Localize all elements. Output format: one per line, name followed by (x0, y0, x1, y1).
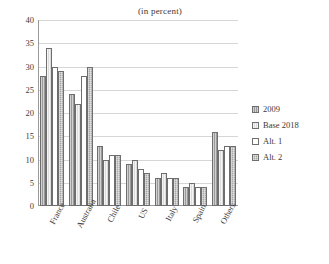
legend-label: Alt. 2 (263, 152, 282, 162)
y-axis-tick-label: 0 (30, 201, 34, 211)
y-axis-tick-label: 40 (26, 15, 35, 25)
bar-groups (38, 20, 238, 206)
y-axis-tick-label: 15 (26, 131, 35, 141)
y-axis-tick-label: 25 (26, 85, 35, 95)
legend-label: Alt. 1 (263, 136, 282, 146)
legend-swatch-icon (252, 154, 259, 161)
legend-item[interactable]: Base 2018 (252, 120, 299, 130)
bar-group (40, 20, 64, 206)
y-axis-tick-label: 30 (26, 62, 35, 72)
x-axis-label-slot: France (40, 208, 66, 264)
chart-title: (in percent) (95, 6, 225, 16)
y-axis-tick-label: 5 (30, 178, 34, 188)
legend-swatch-icon (252, 106, 259, 113)
plot-area: 4035302520151050 (38, 20, 238, 206)
legend-swatch-icon (252, 122, 259, 129)
legend-swatch-icon (252, 138, 259, 145)
bar[interactable] (144, 173, 150, 206)
bar[interactable] (230, 146, 236, 206)
legend-item[interactable]: Alt. 1 (252, 136, 299, 146)
bar[interactable] (87, 67, 93, 207)
bar[interactable] (115, 155, 121, 206)
legend-item[interactable]: 2009 (252, 104, 299, 114)
y-axis-tick-label: 20 (26, 108, 35, 118)
bar-group (69, 20, 93, 206)
bar-group (183, 20, 207, 206)
bar-group (97, 20, 121, 206)
legend-label: 2009 (263, 104, 280, 114)
bar-group (212, 20, 236, 206)
bar[interactable] (173, 178, 179, 206)
legend-item[interactable]: Alt. 2 (252, 152, 299, 162)
y-axis-tick-label: 10 (26, 155, 35, 165)
x-axis-labels: FranceAustraliaChileUSItalySpainOthers (38, 208, 238, 264)
bar-group (155, 20, 179, 206)
bar-group (126, 20, 150, 206)
chart-page: (in percent) 4035302520151050 FranceAust… (0, 0, 329, 264)
y-axis-tick-label: 35 (26, 38, 35, 48)
bar[interactable] (58, 71, 64, 206)
legend-label: Base 2018 (263, 120, 299, 130)
chart-legend: 2009Base 2018Alt. 1Alt. 2 (252, 104, 299, 162)
